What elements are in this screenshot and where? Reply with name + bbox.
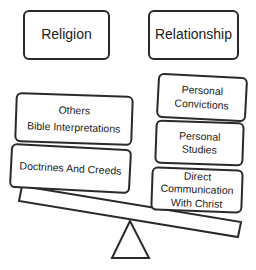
- doctrines-and-creeds-label: Doctrines And Creeds: [19, 159, 122, 177]
- religion-header-box: Religion: [23, 10, 110, 60]
- convictions-label: Convictions: [174, 96, 229, 112]
- personal-convictions-box: Personal Convictions: [156, 73, 248, 123]
- studies-label: Studies: [182, 142, 217, 156]
- others-bible-interpretations-box: Others Bible Interpretations: [14, 92, 134, 146]
- direct-label: Direct: [184, 170, 212, 184]
- scale-fulcrum: [112, 221, 149, 258]
- personal-studies-box: Personal Studies: [154, 119, 244, 166]
- direct-communication-box: Direct Communication With Christ: [150, 166, 243, 213]
- relationship-label: Relationship: [155, 26, 232, 44]
- religion-label: Religion: [41, 26, 92, 44]
- doctrines-and-creeds-box: Doctrines And Creeds: [9, 143, 132, 194]
- bible-interpretations-label: Bible Interpretations: [27, 119, 121, 135]
- relationship-header-box: Relationship: [148, 10, 239, 60]
- with-christ-label: With Christ: [171, 196, 223, 211]
- others-label: Others: [58, 103, 90, 117]
